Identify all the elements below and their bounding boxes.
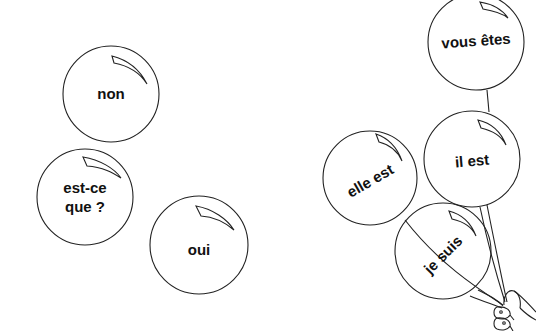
highlight-icon — [112, 56, 147, 84]
balloon-label-oui: oui — [150, 240, 248, 259]
balloon-string — [470, 296, 502, 308]
balloon-illustration: non est-ce que ? oui vous êtes elle est … — [0, 0, 536, 331]
balloon-string — [487, 205, 507, 302]
balloon-string — [480, 207, 505, 302]
balloon-label-line: que ? — [37, 197, 133, 216]
hand-icon — [494, 291, 536, 331]
balloon-string — [487, 90, 489, 112]
highlight-icon — [196, 206, 234, 230]
balloon-label-est-ce-que: est-ce que ? — [37, 178, 133, 216]
balloon-label-non: non — [63, 84, 159, 103]
balloon-label-line: est-ce — [37, 178, 133, 197]
highlight-icon — [480, 2, 508, 18]
highlight-icon — [478, 120, 506, 145]
